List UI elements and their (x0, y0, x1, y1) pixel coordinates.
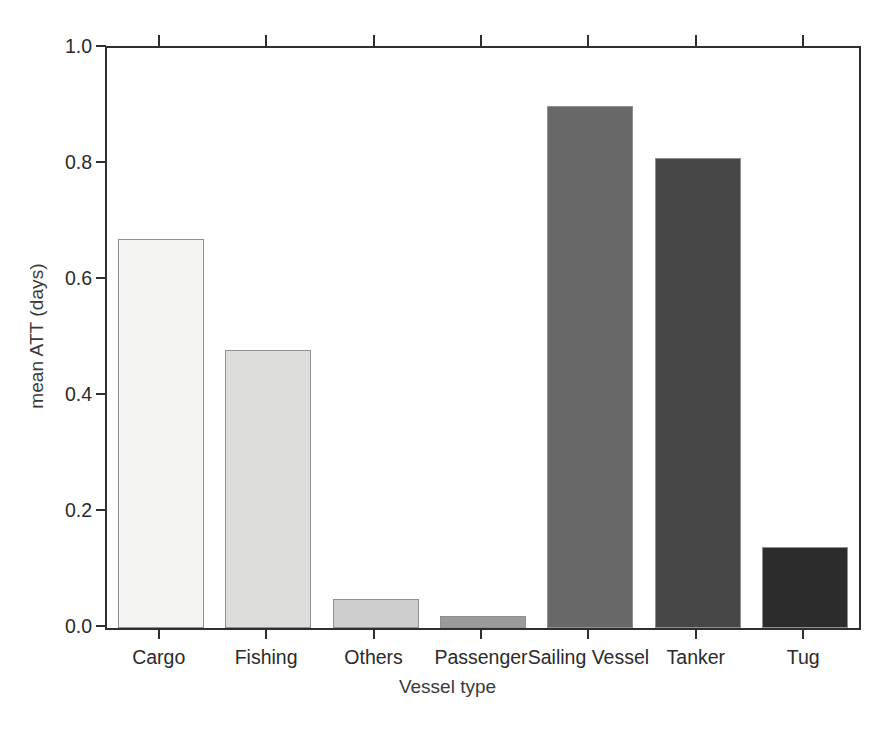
bar (440, 616, 526, 628)
x-axis-title: Vessel type (0, 676, 895, 698)
x-axis-top-tick-mark (158, 35, 160, 46)
x-axis-top-tick-mark (265, 35, 267, 46)
y-axis-tick-mark (96, 625, 106, 627)
y-axis-tick-mark (96, 393, 106, 395)
x-axis-tick-mark (695, 628, 697, 639)
x-axis-top-tick-mark (480, 35, 482, 46)
bar-chart-figure: mean ATT (days) 0.00.20.40.60.81.0 Vesse… (0, 0, 895, 731)
y-axis-tick-mark (96, 45, 106, 47)
bar (655, 158, 741, 628)
bar (333, 599, 419, 628)
y-axis-tick-labels: 0.00.20.40.60.81.0 (30, 0, 92, 731)
x-axis-tick-mark (158, 628, 160, 639)
x-axis-tick-label: Sailing Vessel (528, 646, 649, 669)
x-axis-tick-label: Cargo (132, 646, 185, 669)
x-axis-tick-mark (265, 628, 267, 639)
x-axis-tick-label: Tanker (667, 646, 726, 669)
x-axis-top-tick-mark (587, 35, 589, 46)
x-axis-tick-mark (802, 628, 804, 639)
x-axis-tick-mark (373, 628, 375, 639)
x-axis-top-tick-mark (373, 35, 375, 46)
bar (762, 547, 848, 628)
x-axis-tick-label: Passenger (434, 646, 527, 669)
y-axis-tick-mark (96, 161, 106, 163)
plot-area (105, 46, 861, 630)
y-axis-tick-mark (96, 277, 106, 279)
x-axis-tick-label: Others (344, 646, 403, 669)
x-axis-tick-label: Tug (787, 646, 820, 669)
x-axis-tick-mark (587, 628, 589, 639)
y-axis-tick-mark (96, 509, 106, 511)
y-axis-tick-label: 0.6 (34, 267, 92, 290)
y-axis-tick-label: 0.4 (34, 383, 92, 406)
bar-series (107, 48, 859, 628)
bar (547, 106, 633, 628)
y-axis-tick-label: 1.0 (34, 35, 92, 58)
y-axis-tick-label: 0.2 (34, 499, 92, 522)
y-axis-tick-label: 0.0 (34, 615, 92, 638)
bar (118, 239, 204, 628)
x-axis-tick-mark (480, 628, 482, 639)
bar (225, 350, 311, 628)
x-axis-top-tick-mark (695, 35, 697, 46)
x-axis-top-tick-mark (802, 35, 804, 46)
y-axis-tick-label: 0.8 (34, 151, 92, 174)
x-axis-tick-label: Fishing (235, 646, 298, 669)
